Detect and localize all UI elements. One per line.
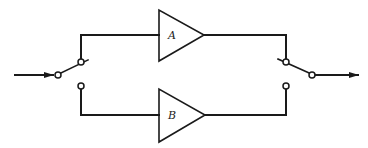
input-contact-b — [78, 83, 84, 89]
redundant-amplifier-diagram: A B — [0, 0, 368, 148]
wire-to-amp-a — [81, 35, 159, 59]
output-contact-a — [283, 59, 289, 65]
wire-to-amp-b — [81, 89, 159, 115]
input-contact-a — [78, 59, 84, 65]
amplifier-a-label: A — [167, 29, 176, 42]
wire-from-amp-b — [205, 89, 286, 115]
amplifier-b-label: B — [167, 109, 176, 122]
output-switch-pivot — [309, 72, 315, 78]
input-switch-pivot — [55, 72, 61, 78]
output-contact-b — [283, 83, 289, 89]
amplifier-b — [159, 89, 205, 142]
wire-from-amp-a — [204, 35, 286, 59]
amplifier-a — [159, 10, 204, 61]
